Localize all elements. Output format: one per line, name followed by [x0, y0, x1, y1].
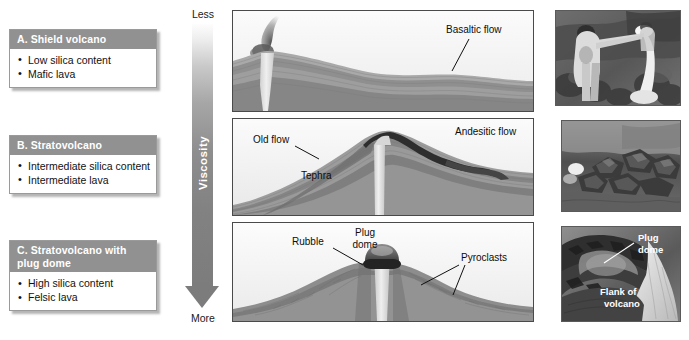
label-plug-dome-line1: Plug: [355, 227, 375, 238]
viscosity-axis-title: Viscosity: [192, 128, 213, 198]
label-andesitic-flow: Andesitic flow: [455, 126, 517, 137]
list-item: Intermediate lava: [18, 173, 150, 187]
info-box-stratovolcano: B. Stratovolcano Intermediate silica con…: [9, 135, 157, 194]
info-box-stratovolcano-plug-dome: C. Stratovolcano with plug dome High sil…: [9, 240, 157, 311]
info-box-body: High silica content Felsic lava: [10, 272, 156, 310]
viscosity-top-label: Less: [176, 8, 230, 20]
label-rubble: Rubble: [292, 236, 324, 247]
photo-andesitic-blocky-flow: [561, 120, 681, 212]
photo-sampling-basaltic-lava: [555, 10, 681, 106]
info-box-body: Low silica content Mafic lava: [10, 49, 156, 87]
list-item: Felsic lava: [18, 290, 150, 304]
list-item: Intermediate silica content: [18, 159, 150, 173]
photo-label-plug-line1: Plug: [638, 232, 659, 243]
illustration-shield-volcano: Basaltic flow: [232, 10, 534, 112]
viscosity-bottom-label: More: [176, 312, 230, 324]
label-plug-dome-line2: dome: [352, 239, 377, 250]
viscosity-title-text: Viscosity: [197, 136, 209, 190]
illustration-stratovolcano: Old flow Tephra Andesitic flow: [232, 118, 534, 216]
photo-label-plug-line2: dome: [638, 244, 663, 255]
volcano-types-figure: A. Shield volcano Low silica content Maf…: [0, 0, 689, 340]
list-item: Low silica content: [18, 53, 150, 67]
list-item: High silica content: [18, 276, 150, 290]
info-box-shield-volcano: A. Shield volcano Low silica content Maf…: [9, 29, 157, 88]
info-box-header: C. Stratovolcano with plug dome: [10, 241, 156, 272]
info-box-header: B. Stratovolcano: [10, 136, 156, 155]
list-item: Mafic lava: [18, 67, 150, 81]
label-basaltic-flow: Basaltic flow: [446, 24, 502, 35]
label-tephra: Tephra: [301, 170, 332, 181]
label-old-flow: Old flow: [253, 134, 290, 145]
photo-label-flank-line1: Flank of: [600, 286, 637, 297]
info-box-header-line2: plug dome: [17, 257, 149, 270]
info-box-body: Intermediate silica content Intermediate…: [10, 155, 156, 193]
label-pyroclasts: Pyroclasts: [461, 252, 507, 263]
info-box-header: A. Shield volcano: [10, 30, 156, 49]
info-box-header-line1: C. Stratovolcano with: [17, 244, 149, 257]
viscosity-arrowhead-icon: [185, 286, 219, 308]
viscosity-axis: Less Viscosity More: [176, 0, 230, 340]
illustration-plug-dome: Rubble Plug dome Pyroclasts: [232, 222, 534, 322]
photo-label-flank-line2: volcano: [604, 298, 640, 309]
photo-plug-dome-aerial: Plug dome Flank of volcano: [561, 226, 681, 322]
